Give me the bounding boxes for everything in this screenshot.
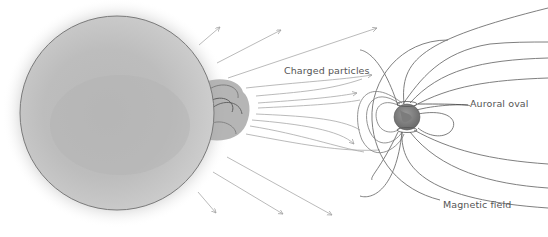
- leader-lines: [418, 104, 468, 105]
- earth: [394, 104, 420, 130]
- auroral-oval-label: Auroral oval: [470, 98, 529, 109]
- sun: [20, 16, 214, 210]
- space-weather-diagram: Charged particles Auroral oval Magnetic …: [0, 0, 548, 237]
- magnetic-field-label: Magnetic field: [443, 199, 511, 210]
- charged-particles-label: Charged particles: [284, 65, 370, 76]
- charged-particle-arrows: [246, 75, 380, 152]
